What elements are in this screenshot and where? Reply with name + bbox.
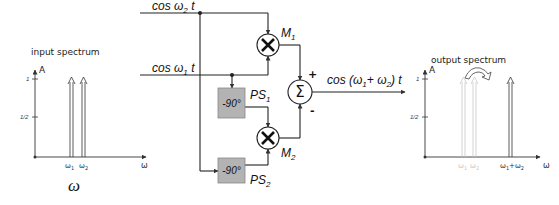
ps2-value: -90°	[222, 165, 240, 176]
ssb-modulator-diagram: input spectrum A ω 1 1/2 ω1 ω2 ω	[0, 0, 559, 205]
mixer-m2: M2	[257, 127, 296, 162]
tick-1: 1	[26, 76, 29, 82]
ghost-peak-omega1	[460, 77, 467, 157]
output-spectrum-title: output spectrum	[431, 55, 506, 65]
tick-1: 1	[416, 76, 419, 82]
plus-sign: +	[308, 68, 317, 81]
x-axis-label: ω	[543, 161, 550, 170]
input-spectrum-plot: input spectrum A ω 1 1/2 ω1 ω2	[20, 47, 148, 171]
output-label: cos (ω1+ ω2) t	[327, 73, 402, 89]
tick-half: 1/2	[410, 114, 419, 120]
input-cos-omega2: cos ω2 t	[152, 0, 195, 15]
curved-arrow-icon	[465, 68, 491, 80]
ghost-label-omega1: ω1	[458, 162, 467, 171]
omega-caption: ω	[68, 176, 80, 195]
y-axis-label: A	[39, 65, 46, 75]
mixer-m1: M1	[257, 26, 295, 56]
mixer-m2-label: M2	[281, 146, 296, 162]
mixer-m1-label: M1	[281, 26, 295, 42]
ghost-peak-omega2	[471, 77, 478, 157]
output-spectrum-plot: output spectrum A ω 1 1/2 ω1 ω2 ω1	[410, 55, 550, 171]
peak-omega2	[80, 77, 87, 157]
phase-shifter-ps2: -90° PS2	[218, 158, 271, 189]
phase-shifter-ps1: -90° PS1	[218, 88, 270, 118]
ps1-label: PS1	[250, 88, 270, 104]
y-axis-label: A	[429, 65, 436, 75]
sum-peak-label: ω1+ω2	[500, 162, 524, 171]
input-cos-omega1: cos ω1 t	[152, 61, 195, 77]
peak-label-omega1: ω1	[65, 162, 74, 171]
ps1-value: -90°	[222, 98, 240, 109]
tick-half: 1/2	[20, 114, 29, 120]
sum-peak	[507, 77, 514, 157]
minus-sign: -	[310, 104, 315, 117]
input-spectrum-title: input spectrum	[31, 47, 100, 57]
ghost-label-omega2: ω2	[470, 162, 479, 171]
peak-omega1	[68, 77, 75, 157]
sigma-icon: Σ	[295, 83, 304, 101]
ps2-label: PS2	[250, 173, 271, 189]
x-axis-label: ω	[141, 161, 148, 170]
peak-label-omega2: ω2	[79, 162, 88, 171]
